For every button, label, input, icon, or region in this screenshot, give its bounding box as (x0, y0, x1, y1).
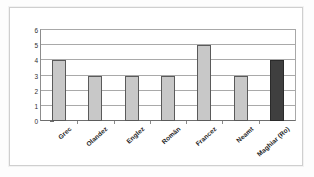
bar-chart-figure: 0123456 GrecOlandezEnglezRomânFrancezNea… (0, 0, 314, 177)
y-tick-label: 6 (34, 27, 38, 34)
x-tick-mark (150, 121, 151, 124)
x-tick-mark (77, 121, 78, 124)
bar-grec (52, 60, 66, 121)
x-tick-label: Neamt (234, 125, 254, 145)
chart-outer-frame: 0123456 GrecOlandezEnglezRomânFrancezNea… (9, 7, 303, 166)
bar-rom-n (161, 76, 175, 122)
bar-olandez (88, 76, 102, 122)
x-tick-label: Grec (57, 125, 74, 141)
y-tick-label: 2 (34, 87, 38, 94)
bar-neamt (234, 76, 248, 122)
x-tick-mark (186, 121, 187, 124)
y-tick-label: 1 (34, 102, 38, 109)
y-tick-label: 4 (34, 57, 38, 64)
y-tick-label: 0 (34, 118, 38, 125)
bars-layer (41, 30, 295, 121)
x-tick-label: Englez (125, 125, 146, 145)
x-tick-label: Francez (195, 125, 219, 148)
x-tick-mark (259, 121, 260, 124)
x-tick-mark (222, 121, 223, 124)
x-tick-label: Olandez (85, 125, 110, 148)
x-tick-label: Român (160, 125, 182, 146)
x-axis-labels: GrecOlandezEnglezRomânFrancezNeamtMaghia… (41, 125, 305, 173)
x-tick-mark (114, 121, 115, 124)
bar-englez (125, 76, 139, 122)
x-tick-label: Maghiar (Ro) (255, 125, 291, 158)
bar-francez (197, 45, 211, 121)
y-tick-label: 5 (34, 42, 38, 49)
y-axis: 0123456 (24, 22, 40, 128)
bar-maghiar-ro (270, 60, 284, 121)
y-tick-label: 3 (34, 72, 38, 79)
